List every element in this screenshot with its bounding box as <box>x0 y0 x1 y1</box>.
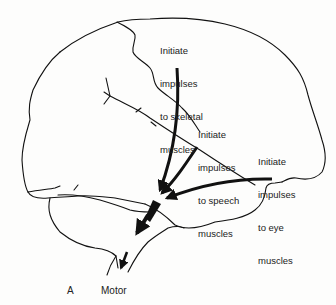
eye-muscles-label: Initiate impulses to eye muscles <box>258 134 296 288</box>
figure-title: Motor <box>101 285 127 296</box>
label-line: Initiate <box>160 45 203 56</box>
label-line: to skeletal <box>160 111 203 122</box>
label-line: muscles <box>160 144 203 155</box>
label-line: impulses <box>160 78 203 89</box>
skeletal-muscles-label: Initiate impulses to skeletal muscles <box>160 23 203 177</box>
motor-pathway-diagram: Initiate impulses to skeletal muscles In… <box>0 0 336 305</box>
label-line: Initiate <box>258 156 296 167</box>
label-line: muscles <box>198 228 239 239</box>
label-line: to eye <box>258 222 296 233</box>
brainstem-arrow <box>137 215 148 233</box>
figure-letter: A <box>67 285 74 296</box>
label-line: impulses <box>258 189 296 200</box>
label-line: muscles <box>258 255 296 266</box>
spinal-arrow <box>121 252 127 268</box>
label-line: to speech <box>198 195 239 206</box>
label-line: impulses <box>198 162 239 173</box>
label-line: Initiate <box>198 129 239 140</box>
speech-muscles-label: Initiate impulses to speech muscles <box>198 107 239 261</box>
